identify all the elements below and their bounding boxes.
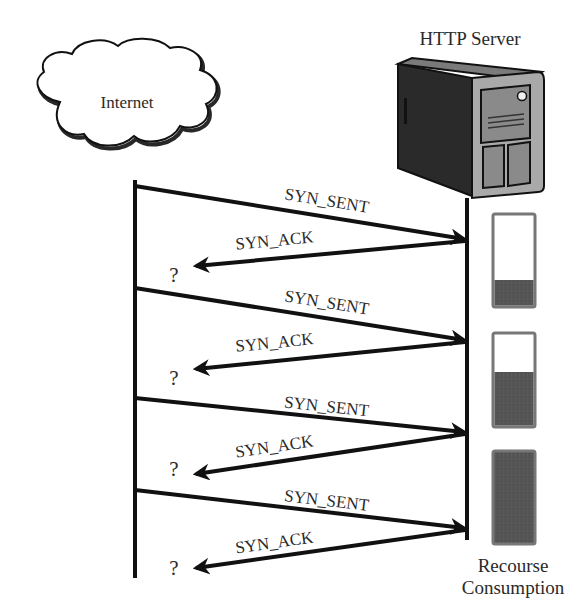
unknown-response-mark: ? bbox=[169, 457, 178, 481]
unknown-response-mark: ? bbox=[169, 263, 178, 287]
unknown-response-mark: ? bbox=[169, 366, 178, 390]
resource-meter-2 bbox=[493, 333, 535, 427]
syn-ack-label: SYN_ACK bbox=[235, 227, 316, 253]
syn-ack-label: SYN_ACK bbox=[235, 329, 316, 356]
server-label: HTTP Server bbox=[419, 28, 521, 49]
message-row-2: SYN_SENT SYN_ACK ? bbox=[135, 287, 465, 390]
unknown-response-mark: ? bbox=[169, 556, 178, 580]
resource-label-line2: Consumption bbox=[462, 577, 565, 598]
syn-flood-diagram: Internet HTTP Server SYN_SENT SYN_ACK ? … bbox=[0, 0, 585, 615]
message-row-1: SYN_SENT SYN_ACK ? bbox=[135, 184, 465, 287]
resource-meter-1 bbox=[493, 214, 535, 307]
resource-meter-3 bbox=[493, 451, 535, 544]
message-row-4: SYN_SENT SYN_ACK ? bbox=[135, 486, 465, 580]
server-tower-icon bbox=[398, 58, 544, 198]
resource-label-line1: Recourse bbox=[478, 555, 549, 576]
message-row-3: SYN_SENT SYN_ACK ? bbox=[135, 393, 465, 481]
internet-label: Internet bbox=[101, 93, 154, 112]
